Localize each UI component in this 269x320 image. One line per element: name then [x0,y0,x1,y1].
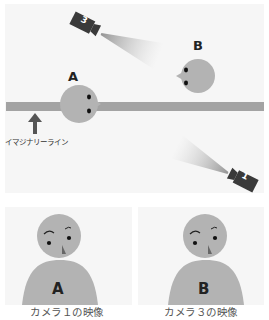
view-1-person-label: A [52,280,64,298]
camera-3-beam [96,21,164,69]
person-a-head-top [60,85,101,123]
person-b-head-top [176,59,215,93]
view-2-person-label: B [198,280,209,298]
camera-1-beam [170,135,233,184]
imaginary-line-label: イマジナリーライン [5,136,68,147]
camera-1-view-caption: カメラ１の映像 [2,304,132,319]
arrow-up-icon [28,113,42,134]
camera-3-view-caption: カメラ３の映像 [136,304,266,319]
person-a-label: A [68,69,78,84]
imaginary-line [6,102,264,111]
person-b-label: B [193,38,203,53]
diagram-graphics [0,0,269,320]
